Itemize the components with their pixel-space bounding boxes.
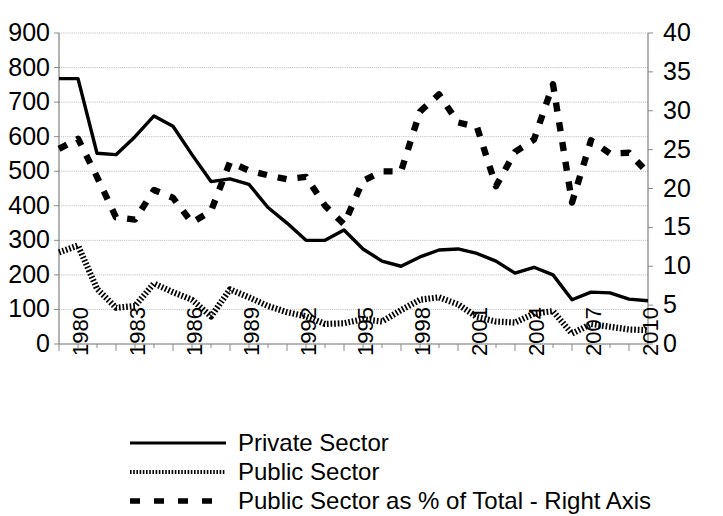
x-axis-tick-label: 2001 xyxy=(469,307,491,356)
x-axis-tick-label: 1986 xyxy=(184,307,206,356)
x-axis-tick-label: 1998 xyxy=(412,307,434,356)
gridlines xyxy=(59,33,648,344)
y-axis-tick-label: 600 xyxy=(0,124,50,149)
beaded-line-key xyxy=(128,462,228,482)
x-axis-tick-label: 1992 xyxy=(298,307,320,356)
x-axis-ticks xyxy=(54,33,653,351)
x-axis-tick-label: 1989 xyxy=(241,307,263,356)
y2-axis-tick-label: 30 xyxy=(663,98,691,123)
y2-axis-tick-label: 15 xyxy=(663,214,691,239)
y-axis-tick-label: 800 xyxy=(0,55,50,80)
x-axis-tick-label: 2007 xyxy=(583,307,605,356)
y2-axis-tick-label: 10 xyxy=(663,253,691,278)
legend-item-public-share: Public Sector as % of Total - Right Axis xyxy=(128,486,708,515)
y-axis-tick-label: 300 xyxy=(0,227,50,252)
x-axis-tick-label: 1983 xyxy=(127,307,149,356)
y2-axis-tick-label: 35 xyxy=(663,59,691,84)
y-axis-tick-label: 900 xyxy=(0,20,50,45)
chart-container: 9008007006005004003002001000 40353025201… xyxy=(0,0,723,516)
y2-axis-tick-label: 40 xyxy=(663,20,691,45)
x-axis-tick-label: 2010 xyxy=(640,307,662,356)
legend-item-public-sector: Public Sector xyxy=(128,457,708,486)
dashed-line-key xyxy=(128,491,228,511)
legend-label-public-share: Public Sector as % of Total - Right Axis xyxy=(238,489,651,513)
y-axis-tick-label: 100 xyxy=(0,296,50,321)
y2-axis-tick-label: 25 xyxy=(663,137,691,162)
y-axis-tick-label: 200 xyxy=(0,262,50,287)
x-axis-tick-label: 2004 xyxy=(526,307,548,356)
solid-line-key xyxy=(128,433,228,453)
y-axis-tick-label: 500 xyxy=(0,158,50,183)
y2-axis-tick-label: 0 xyxy=(663,331,677,356)
y-axis-tick-label: 0 xyxy=(0,331,50,356)
x-axis-tick-label: 1995 xyxy=(355,307,377,356)
y2-axis-tick-label: 20 xyxy=(663,176,691,201)
y-axis-tick-label: 400 xyxy=(0,193,50,218)
y2-axis-tick-label: 5 xyxy=(663,292,677,317)
legend-label-public-sector: Public Sector xyxy=(238,460,379,484)
legend-label-private-sector: Private Sector xyxy=(238,431,389,455)
legend-item-private-sector: Private Sector xyxy=(128,428,708,457)
series-line-3 xyxy=(59,84,648,224)
x-axis-tick-label: 1980 xyxy=(70,307,92,356)
y-axis-tick-label: 700 xyxy=(0,89,50,114)
series-line-1 xyxy=(59,79,648,301)
legend: Private Sector Public Sector Public Sect… xyxy=(128,428,708,515)
